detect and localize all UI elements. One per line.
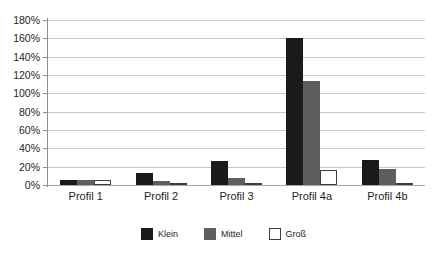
- bar-gross: [396, 183, 413, 185]
- legend-label: Groß: [286, 230, 307, 239]
- legend-item[interactable]: Mittel: [204, 228, 243, 240]
- bar-group: [48, 20, 123, 185]
- bar-mittel: [77, 180, 94, 185]
- y-axis-tick-label: 80%: [0, 107, 40, 118]
- bar-klein: [362, 160, 379, 185]
- bar-gross: [170, 183, 187, 185]
- x-axis-category-label: Profil 3: [199, 190, 274, 203]
- y-axis-tick-label: 60%: [0, 125, 40, 136]
- y-axis-tick-label: 120%: [0, 70, 40, 81]
- bar-mittel: [379, 169, 396, 186]
- bar-mittel: [228, 178, 245, 185]
- y-axis-tick-mark: [43, 112, 47, 113]
- bar-klein: [136, 173, 153, 185]
- legend-swatch-klein: [141, 228, 153, 240]
- y-axis-tick-mark: [43, 75, 47, 76]
- x-axis-category-label: Profil 4b: [350, 190, 425, 203]
- bar-gross: [245, 183, 262, 185]
- x-axis-category-label: Profil 4a: [274, 190, 349, 203]
- bar-chart: 180%160%140%120%100%80%60%40%20%0% Profi…: [0, 0, 447, 254]
- bar-group: [123, 20, 198, 185]
- y-axis-tick-label: 100%: [0, 88, 40, 99]
- y-axis-tick-label: 160%: [0, 33, 40, 44]
- y-axis-tick-label: 140%: [0, 52, 40, 63]
- bar-klein: [60, 180, 77, 185]
- y-axis-tick-label: 20%: [0, 162, 40, 173]
- legend-label: Klein: [158, 230, 178, 239]
- chart-legend: KleinMittelGroß: [0, 228, 447, 240]
- bar-mittel: [153, 181, 170, 185]
- bar-gross: [320, 170, 337, 185]
- y-axis-tick-mark: [43, 38, 47, 39]
- y-axis-tick-label: 40%: [0, 143, 40, 154]
- bar-group: [350, 20, 425, 185]
- x-axis-category-label: Profil 1: [48, 190, 123, 203]
- bar-klein: [211, 161, 228, 185]
- legend-item[interactable]: Groß: [269, 228, 307, 240]
- bar-group: [199, 20, 274, 185]
- legend-label: Mittel: [221, 230, 243, 239]
- legend-item[interactable]: Klein: [141, 228, 178, 240]
- y-axis-tick-mark: [43, 148, 47, 149]
- legend-swatch-mittel: [204, 228, 216, 240]
- bar-gross: [94, 180, 111, 185]
- bar-groups: [48, 20, 425, 185]
- y-axis-tick-mark: [43, 130, 47, 131]
- x-axis-labels: Profil 1Profil 2Profil 3Profil 4aProfil …: [48, 190, 425, 203]
- bar-group: [274, 20, 349, 185]
- y-axis-tick-mark: [43, 185, 47, 186]
- y-axis-tick-label: 0%: [0, 180, 40, 191]
- y-axis-tick-label: 180%: [0, 15, 40, 26]
- y-axis-tick-mark: [43, 93, 47, 94]
- y-axis-tick-mark: [43, 167, 47, 168]
- bar-klein: [286, 38, 303, 185]
- legend-swatch-gross: [269, 228, 281, 240]
- gridline: [48, 185, 425, 186]
- bar-mittel: [303, 81, 320, 185]
- x-axis-category-label: Profil 2: [123, 190, 198, 203]
- y-axis-tick-mark: [43, 20, 47, 21]
- y-axis-labels: 180%160%140%120%100%80%60%40%20%0%: [0, 0, 40, 254]
- y-axis-tick-mark: [43, 57, 47, 58]
